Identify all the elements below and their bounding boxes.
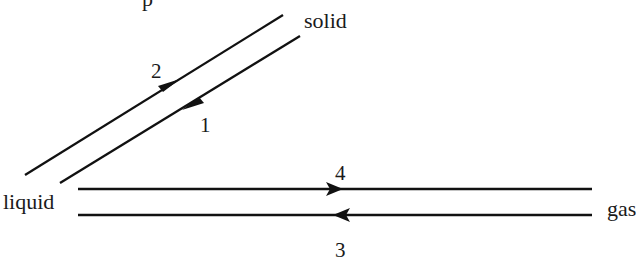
solid-label: solid [304, 8, 347, 33]
arrow-3-label: 3 [335, 238, 346, 262]
phase-change-diagram: p solid liquid gas 2 1 4 3 [0, 0, 636, 266]
gas-label: gas [607, 196, 636, 221]
solid-liquid-transitions [25, 15, 300, 183]
arrow-2-line [25, 15, 283, 175]
cropped-top-text: p [142, 0, 153, 11]
arrow-1-head-icon [182, 97, 204, 110]
arrow-2-label: 2 [151, 59, 162, 83]
arrow-1-label: 1 [200, 113, 211, 137]
arrow-4-label: 4 [335, 161, 346, 185]
liquid-label: liquid [3, 189, 54, 214]
liquid-gas-transitions [78, 182, 592, 222]
arrow-1-line [60, 36, 300, 183]
